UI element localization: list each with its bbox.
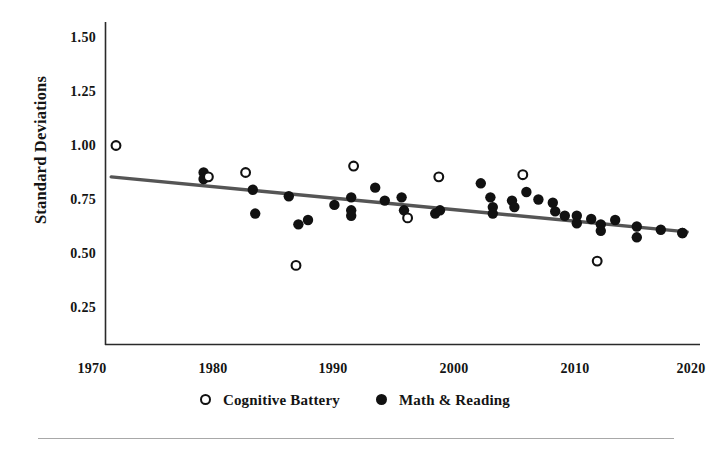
x-tick-label: 2020 [651,362,710,376]
data-point-math-and-reading [572,218,582,228]
data-point-math-and-reading [250,208,260,218]
footer-divider [38,438,674,439]
data-point-math-and-reading [476,178,486,188]
data-point-cognitive-battery [112,141,121,150]
data-point-math-and-reading [596,226,606,236]
data-point-math-and-reading [550,206,560,216]
data-point-math-and-reading [303,215,313,225]
y-tick-label: 1.00 [38,139,96,153]
y-axis-tick-labels: 1.50 1.25 1.00 0.75 0.50 0.25 [38,0,96,457]
data-point-math-and-reading [485,192,495,202]
data-point-math-and-reading [560,211,570,221]
open-circle-icon [200,394,211,405]
data-point-math-and-reading [346,211,356,221]
y-tick-label: 0.75 [38,193,96,207]
data-point-math-and-reading [370,182,380,192]
legend-item-math-and-reading: Math & Reading [376,391,510,409]
y-tick-label: 0.50 [38,247,96,261]
data-point-math-and-reading [632,221,642,231]
data-point-math-and-reading [521,187,531,197]
data-point-cognitive-battery [349,162,358,171]
data-point-math-and-reading [380,195,390,205]
data-point-cognitive-battery [204,172,213,181]
y-tick-label: 1.25 [38,85,96,99]
data-point-math-and-reading [632,232,642,242]
data-point-math-and-reading [533,194,543,204]
series-cognitive-battery-points [112,141,602,270]
filled-circle-icon [376,394,387,405]
y-tick-label: 1.50 [38,31,96,45]
data-point-cognitive-battery [593,257,602,266]
x-tick-label: 1970 [52,362,132,376]
data-point-cognitive-battery [403,213,412,222]
x-tick-label: 1990 [293,362,373,376]
data-point-math-and-reading [346,192,356,202]
data-point-math-and-reading [610,215,620,225]
data-point-math-and-reading [586,214,596,224]
legend-item-cognitive-battery: Cognitive Battery [200,391,340,409]
data-point-math-and-reading [656,225,666,235]
y-tick-label: 0.25 [38,301,96,315]
data-point-math-and-reading [293,219,303,229]
data-point-cognitive-battery [518,170,527,179]
x-tick-label: 2000 [414,362,494,376]
data-point-cognitive-battery [434,172,443,181]
data-point-math-and-reading [396,192,406,202]
data-point-math-and-reading [284,191,294,201]
data-point-math-and-reading [509,202,519,212]
legend-label: Cognitive Battery [223,392,340,409]
data-point-math-and-reading [677,228,687,238]
data-point-math-and-reading [488,208,498,218]
data-point-math-and-reading [329,200,339,210]
plot-canvas [0,0,710,457]
data-point-math-and-reading [435,205,445,215]
x-tick-label: 1980 [173,362,253,376]
data-point-cognitive-battery [292,261,301,270]
data-point-math-and-reading [248,185,258,195]
x-tick-label: 2010 [535,362,615,376]
data-point-cognitive-battery [241,168,250,177]
chart-legend: Cognitive Battery Math & Reading [0,390,710,409]
legend-label: Math & Reading [399,392,510,409]
scatter-chart-figure: Standard Deviations 1.50 1.25 1.00 0.75 … [0,0,710,457]
